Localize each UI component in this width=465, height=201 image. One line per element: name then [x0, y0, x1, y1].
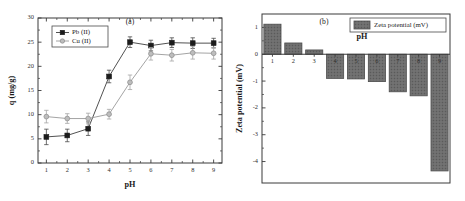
- panel-a-xtick-label-3: 3: [87, 166, 90, 173]
- panel-a-marker-cu: [211, 51, 216, 56]
- panel-a-xtick-label-2: 2: [66, 166, 69, 173]
- panel-a-ytick-label-30: 30: [28, 13, 34, 20]
- panel-a-xtick-label-9: 9: [212, 166, 215, 173]
- panel-b-legend-label: Zeta potential (mV): [374, 21, 428, 29]
- panel-a-marker-cu: [169, 53, 174, 58]
- panel-b-xtick-label-2: 2: [292, 57, 295, 64]
- panel-a-marker-pb: [65, 133, 70, 138]
- panel-b-ytick-label-0: 0: [255, 50, 258, 57]
- panel-a-xtick-label-4: 4: [107, 166, 111, 173]
- panel-a-ytick-label-20: 20: [28, 62, 34, 69]
- panel-b-ytick-label--3: -3: [253, 130, 258, 137]
- panel-a-marker-pb: [190, 41, 195, 46]
- panel-a-xtick-label-5: 5: [128, 166, 131, 173]
- figure-container: 123456789051015202530Pb (II)Cu (II)pHq (…: [0, 0, 465, 201]
- panel-a-marker-pb: [211, 41, 216, 46]
- panel-a-legend-label-cu: Cu (II): [72, 37, 91, 45]
- panel-a-marker-cu: [128, 80, 133, 85]
- panel-a-legend-marker-cu: [60, 39, 64, 43]
- panel-a-marker-pb: [169, 40, 174, 45]
- panel-b-ytick-label--2: -2: [253, 103, 258, 110]
- panel-b-xtick-label-5: 5: [354, 57, 357, 64]
- panel-a-xtick-label-1: 1: [45, 166, 48, 173]
- panel-b-xtick-label-9: 9: [438, 57, 441, 64]
- panel-a-ytick-label-15: 15: [28, 86, 34, 93]
- panel-a-ytick-label-25: 25: [28, 38, 34, 45]
- panel-b-xtick-label-8: 8: [417, 57, 420, 64]
- panel-b-y-axis-title: Zeta potential (mV): [235, 64, 244, 133]
- panel-b-ytick-label-1: 1: [255, 23, 258, 30]
- panel-b-bar: [264, 24, 281, 54]
- panel-b-ytick-label--1: -1: [253, 77, 258, 84]
- panel-b-tag: (b): [320, 17, 329, 26]
- panel-b-legend-swatch: [354, 21, 370, 29]
- panel-a-legend-marker-pb: [60, 30, 64, 34]
- panel-a-y-axis-title: q (mg/g): [7, 76, 16, 106]
- panel-a-xtick-label-8: 8: [191, 166, 194, 173]
- panel-a-marker-cu: [44, 114, 49, 119]
- panel-a-svg: 123456789051015202530Pb (II)Cu (II)pHq (…: [0, 0, 232, 201]
- panel-a-tag: (a): [126, 17, 135, 26]
- panel-a-xtick-label-7: 7: [170, 166, 174, 173]
- panel-a-marker-pb: [44, 135, 49, 140]
- panel-a-legend-label-pb: Pb (II): [72, 28, 90, 36]
- panel-a-marker-cu: [149, 51, 154, 56]
- panel-b-ytick-label--4: -4: [253, 157, 259, 164]
- panel-a-marker-pb: [86, 126, 91, 131]
- panel-b-zeta-potential-vs-ph: 123456789 10-1-2-3-4Zeta potential (mV)p…: [232, 0, 465, 201]
- panel-a-marker-pb: [128, 40, 133, 45]
- panel-a-marker-cu: [190, 50, 195, 55]
- panel-b-x-axis-title: pH: [357, 32, 369, 41]
- panel-a-ytick-label-0: 0: [31, 158, 34, 165]
- panel-b-bar: [431, 54, 448, 171]
- panel-a-ytick-label-5: 5: [31, 134, 34, 141]
- panel-a-marker-pb: [107, 74, 112, 79]
- panel-a-xtick-label-6: 6: [149, 166, 152, 173]
- panel-b-bar: [306, 50, 323, 54]
- panel-b-xtick-label-6: 6: [375, 57, 378, 64]
- panel-b-xtick-label-1: 1: [271, 57, 274, 64]
- panel-b-xtick-label-3: 3: [313, 57, 316, 64]
- panel-a-ytick-label-10: 10: [28, 110, 34, 117]
- panel-a-marker-cu: [86, 116, 91, 121]
- panel-a-marker-cu: [107, 112, 112, 117]
- panel-a-adsorption-vs-ph: 123456789051015202530Pb (II)Cu (II)pHq (…: [0, 0, 232, 201]
- panel-a-marker-cu: [65, 116, 70, 121]
- panel-b-bar: [285, 43, 302, 54]
- panel-b-svg: 123456789 10-1-2-3-4Zeta potential (mV)p…: [232, 0, 465, 201]
- panel-a-x-axis-title: pH: [125, 180, 137, 189]
